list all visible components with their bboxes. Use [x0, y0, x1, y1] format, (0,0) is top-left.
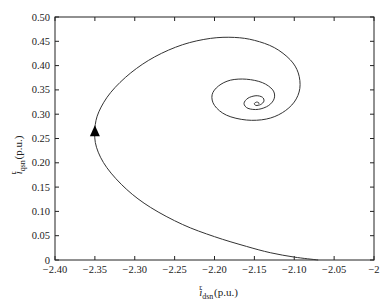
y-tick-label: 0.20 [32, 157, 50, 168]
spiral-trajectory-chart: 00.050.100.150.200.250.300.350.400.450.5… [0, 0, 386, 303]
y-tick-label: 0.50 [32, 12, 50, 23]
x-tick-label: −2.20 [202, 264, 226, 275]
y-tick-label: 0.35 [32, 84, 50, 95]
y-tick-label: 0.15 [32, 182, 50, 193]
chart-background [0, 0, 386, 303]
x-tick-label: −2.30 [123, 264, 147, 275]
x-tick-label: −2 [368, 264, 379, 275]
y-tick-label: 0.45 [32, 36, 50, 47]
x-tick-label: −2.40 [43, 264, 67, 275]
y-tick-label: 0.40 [32, 60, 50, 71]
x-tick-label: −2.35 [83, 264, 107, 275]
y-tick-label: 0.10 [32, 206, 50, 217]
y-tick-label: 0.30 [32, 109, 50, 120]
y-tick-label: 0.25 [32, 133, 50, 144]
x-tick-label: −2.05 [322, 264, 346, 275]
x-tick-label: −2.15 [242, 264, 266, 275]
x-tick-label: −2.25 [162, 264, 186, 275]
y-tick-label: 0.05 [32, 230, 50, 241]
x-tick-label: −2.10 [282, 264, 306, 275]
